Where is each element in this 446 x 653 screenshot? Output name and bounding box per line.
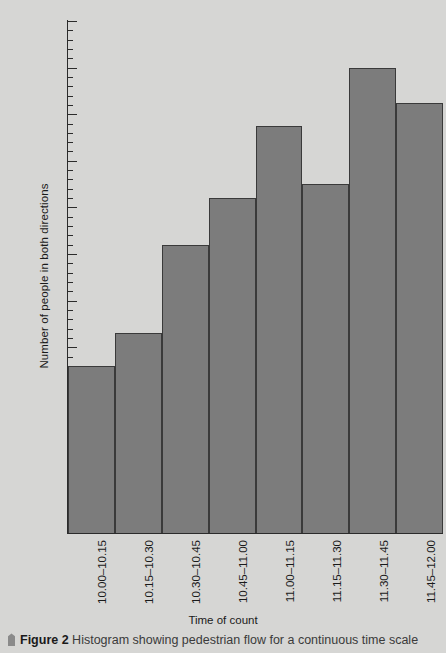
plot-area: 0100110120130140150160170180190200	[67, 20, 443, 534]
caption-text: Histogram showing pedestrian flow for a …	[69, 633, 418, 647]
pin-icon	[8, 633, 15, 646]
bar	[349, 68, 396, 533]
bar	[396, 103, 443, 533]
bar	[302, 184, 349, 533]
bar	[68, 366, 115, 533]
caption-figure-number: Figure 2	[20, 633, 69, 647]
bar	[115, 333, 162, 533]
x-axis-title: Time of count	[0, 614, 446, 626]
y-tick-major	[68, 533, 77, 534]
figure-container: Number of people in both directions 0100…	[0, 0, 446, 653]
bar	[256, 126, 303, 533]
y-axis-title: Number of people in both directions	[38, 146, 50, 406]
bar-series	[68, 20, 443, 533]
x-axis-tick-labels: 10.00–10.1510.15–10.3010.30–10.4510.45–1…	[68, 540, 444, 612]
x-axis-line	[67, 533, 443, 534]
bar	[162, 245, 209, 533]
bar	[209, 198, 256, 533]
figure-caption: Figure 2 Histogram showing pedestrian fl…	[8, 633, 440, 649]
